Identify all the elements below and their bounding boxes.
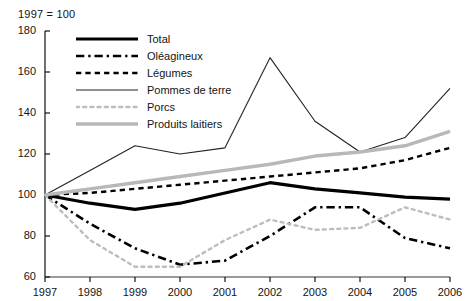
legend-label-pommes-de-terre: Pommes de terre	[147, 84, 231, 96]
legend-swatch-pommes-de-terre	[76, 84, 138, 96]
legend-label-legumes: Légumes	[147, 67, 192, 79]
x-axis-tick-label: 2003	[293, 286, 337, 298]
legend-swatch-legumes	[76, 67, 138, 79]
x-axis-tick-label: 1998	[68, 286, 112, 298]
index-line-chart: 1997 = 100 TotalOléagineuxLégumesPommes …	[0, 0, 476, 301]
legend-item-pommes-de-terre[interactable]: Pommes de terre	[76, 81, 231, 98]
y-axis-tick-label: 140	[2, 106, 36, 118]
x-axis-tick-label: 2005	[383, 286, 427, 298]
x-axis-tick-label: 2000	[158, 286, 202, 298]
y-axis-tick-label: 100	[2, 188, 36, 200]
x-axis-tick-label: 2004	[338, 286, 382, 298]
legend-swatch-produits-laitiers	[76, 118, 138, 130]
series-line-produits-laitiers	[45, 131, 450, 195]
legend-swatch-total	[76, 33, 138, 45]
legend-label-porcs: Porcs	[147, 101, 175, 113]
x-axis-tick-label: 1997	[23, 286, 67, 298]
x-axis-tick-label: 2002	[248, 286, 292, 298]
x-axis-tick-label: 2001	[203, 286, 247, 298]
legend-item-oleagineux[interactable]: Oléagineux	[76, 47, 231, 64]
y-axis-tick-label: 180	[2, 24, 36, 36]
y-axis-tick-label: 120	[2, 147, 36, 159]
legend-item-porcs[interactable]: Porcs	[76, 98, 231, 115]
chart-legend: TotalOléagineuxLégumesPommes de terrePor…	[76, 30, 231, 132]
legend-label-produits-laitiers: Produits laitiers	[147, 118, 222, 130]
x-axis-tick-label: 1999	[113, 286, 157, 298]
plot-area	[0, 0, 476, 301]
x-axis-tick-label: 2006	[428, 286, 472, 298]
legend-swatch-oleagineux	[76, 50, 138, 62]
y-axis-tick-label: 60	[2, 270, 36, 282]
legend-item-total[interactable]: Total	[76, 30, 231, 47]
legend-swatch-porcs	[76, 101, 138, 113]
legend-item-produits-laitiers[interactable]: Produits laitiers	[76, 115, 231, 132]
legend-label-oleagineux: Oléagineux	[147, 50, 203, 62]
legend-item-legumes[interactable]: Légumes	[76, 64, 231, 81]
legend-label-total: Total	[147, 33, 170, 45]
y-axis-tick-label: 160	[2, 65, 36, 77]
y-axis-tick-label: 80	[2, 229, 36, 241]
